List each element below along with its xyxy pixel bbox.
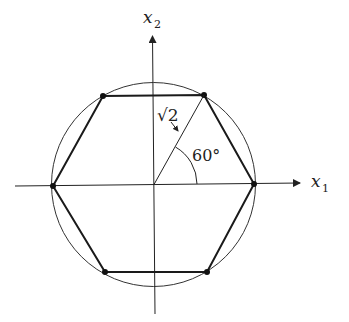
vertex-dot	[251, 181, 257, 187]
x1-axis	[15, 183, 300, 186]
radius-label: √2	[157, 105, 179, 125]
x2-axis-label: x 2	[143, 7, 161, 31]
x2-label-var: x	[143, 7, 153, 27]
angle-label: 60°	[192, 146, 220, 165]
hexagon-in-circle-diagram: √2 60° x 1 x 2	[0, 0, 349, 322]
vertex-dot	[50, 183, 56, 189]
vertex-dot	[204, 269, 210, 275]
vertex-dot	[100, 93, 106, 99]
x1-label-var: x	[311, 171, 321, 191]
x1-axis-label: x 1	[311, 171, 329, 195]
x2-label-subscript: 2	[154, 18, 161, 31]
x1-label-subscript: 1	[322, 182, 329, 195]
vertex-dot	[102, 269, 108, 275]
